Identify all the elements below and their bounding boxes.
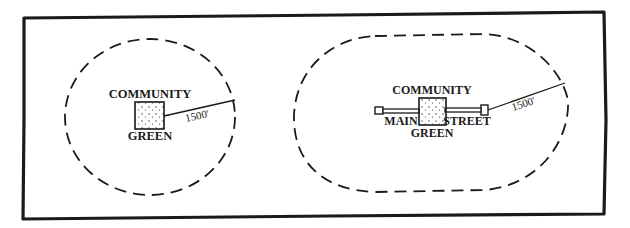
radius-distance-label: 1500' — [184, 107, 210, 124]
main-street-right-segment — [445, 108, 481, 112]
green-label: GREEN — [128, 129, 172, 143]
community-green-square — [419, 98, 446, 125]
right-panel: COMMUNITY MAIN STREET GREEN 1500' — [294, 34, 568, 192]
outer-frame — [23, 12, 606, 219]
main-street-left-end — [375, 107, 383, 114]
community-green-square — [135, 102, 164, 129]
neighborhood-diagram: COMMUNITY GREEN 1500' COMMUNITY MAIN STR… — [0, 0, 630, 228]
radius-distance-label: 1500' — [510, 94, 537, 113]
main-street-left-segment — [383, 109, 419, 113]
community-label: COMMUNITY — [109, 87, 192, 101]
left-panel: COMMUNITY GREEN 1500' — [65, 39, 235, 195]
community-label: COMMUNITY — [392, 83, 472, 97]
green-label: GREEN — [411, 126, 454, 140]
